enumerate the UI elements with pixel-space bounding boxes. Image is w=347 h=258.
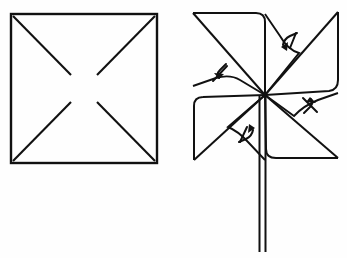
blade-top-left (193, 13, 265, 95)
pin-lower-right (303, 97, 317, 113)
pin-lower-right-arrowhead (306, 97, 316, 103)
blade-bottom-right (265, 93, 338, 158)
blade-top-left-flap (193, 76, 265, 95)
pin-lower-left (239, 124, 255, 142)
pin-lower-left-arrowhead (248, 124, 255, 133)
blade-bottom-right-diagonal (265, 95, 338, 158)
pinwheel-diagram-canvas: Pinwheel folding diagram (0, 0, 347, 258)
panel-assembled-pinwheel (193, 12, 338, 252)
panel-cut-square (11, 14, 157, 163)
cut-top-left-line (13, 16, 71, 75)
blade-top-right-flap (265, 14, 299, 95)
cut-bottom-left-line (13, 102, 71, 161)
blade-bottom-left (194, 95, 265, 160)
blade-top-right (265, 12, 338, 95)
cut-top-right-line (97, 16, 155, 75)
cut-bottom-right-line (97, 102, 155, 161)
pin-upper-left (213, 64, 227, 81)
pinwheel-hub (263, 93, 267, 97)
